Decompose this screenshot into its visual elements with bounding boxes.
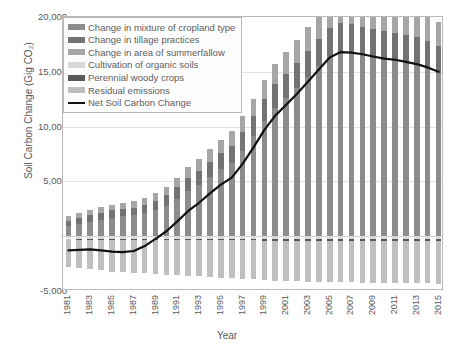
x-tick-label: 2007 (345, 295, 355, 315)
x-tick-label: 2009 (367, 295, 377, 315)
legend-item-label: Change in tillage practices (88, 35, 199, 45)
legend-item: Change in mixture of cropland type (68, 21, 235, 34)
legend-swatch-icon (68, 37, 85, 43)
x-tick-label: 1983 (84, 295, 94, 315)
y-tick-label: 15,000 (5, 65, 67, 76)
legend-item-label: Perennial woody crops (88, 73, 184, 83)
chart-root: Soil Carbon Change (Gig CO₂) 20,00015,00… (0, 0, 454, 349)
legend-swatch-icon (68, 87, 85, 93)
y-tick-label: 0 (5, 230, 67, 241)
x-tick-label: 2011 (389, 295, 399, 314)
x-tick-label: 2005 (324, 295, 334, 315)
y-tick-label: -5,000 (5, 285, 67, 296)
x-tick-label: 2003 (302, 295, 312, 315)
legend-item-label: Residual emissions (88, 86, 170, 96)
x-tick-label: 2001 (280, 295, 290, 315)
y-tick-label: 10,000 (5, 120, 67, 131)
x-tick-label: 1987 (128, 295, 138, 315)
legend-swatch-icon (68, 62, 85, 68)
legend-swatch-icon (68, 24, 85, 30)
x-tick-label: 2013 (411, 295, 421, 315)
x-tick-label: 1985 (106, 295, 116, 315)
x-tick-label: 1999 (258, 295, 268, 315)
legend-swatch-icon (68, 49, 85, 55)
legend-item: Perennial woody crops (68, 71, 235, 84)
legend-item: Change in tillage practices (68, 34, 235, 47)
x-tick-label: 1993 (193, 295, 203, 315)
legend-item-label: Cultivation of organic soils (88, 60, 198, 70)
x-axis-title: Year (0, 330, 454, 341)
legend-line-icon (68, 102, 85, 105)
x-tick-label: 1997 (237, 295, 247, 315)
x-tick-label: 2015 (433, 295, 443, 315)
legend: Change in mixture of cropland typeChange… (63, 17, 242, 113)
legend-item-label: Net Soil Carbon Change (88, 98, 191, 108)
legend-item: Cultivation of organic soils (68, 59, 235, 72)
y-axis-title: Soil Carbon Change (Gig CO₂) (23, 36, 34, 186)
x-tick-label: 1995 (215, 295, 225, 315)
y-tick-label: 5,000 (5, 175, 67, 186)
x-tick-label: 1989 (150, 295, 160, 315)
x-tick-label: 1981 (62, 295, 72, 315)
legend-item: Change in area of summerfallow (68, 46, 235, 59)
legend-item: Residual emissions (68, 84, 235, 97)
legend-item-label: Change in area of summerfallow (88, 48, 225, 58)
legend-item: Net Soil Carbon Change (68, 97, 235, 110)
legend-item-label: Change in mixture of cropland type (88, 23, 235, 33)
y-tick-label: 20,000 (5, 11, 67, 22)
x-tick-label: 1991 (171, 295, 181, 315)
legend-swatch-icon (68, 75, 85, 81)
